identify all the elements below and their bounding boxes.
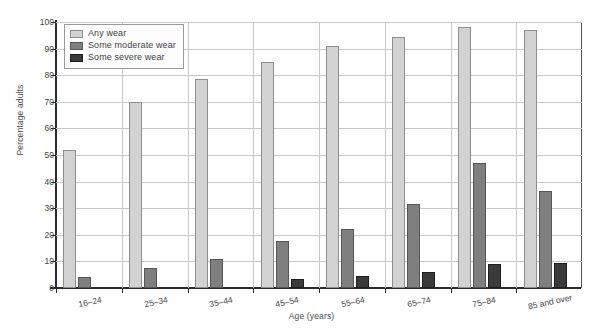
legend-item: Some severe wear [70,52,176,64]
bar [291,279,304,288]
x-axis-tick-mark [253,288,254,293]
gridline-vertical [319,22,320,288]
bar [539,191,552,288]
bar [554,263,567,288]
x-axis-tick-mark [319,288,320,293]
y-axis-tick-mark [51,22,56,23]
gridline-vertical [385,22,386,288]
legend-item-label: Some severe wear [88,52,165,64]
y-axis-tick-mark [51,49,56,50]
y-axis-tick-mark [51,102,56,103]
bar [195,79,208,288]
x-axis-tick-label: 75–84 [472,295,497,310]
bar [261,62,274,288]
legend-swatch-icon [70,54,83,62]
x-axis-tick-mark [56,288,57,293]
x-axis-tick-mark [385,288,386,293]
x-axis-tick-label: 35–44 [209,295,234,310]
x-axis-tick-label: 45–54 [275,295,300,310]
gridline-vertical [516,22,517,288]
bar [407,204,420,288]
x-axis-tick-mark [451,288,452,293]
bar [210,259,223,288]
gridline-vertical [188,22,189,288]
chart-figure: Percentage adults Age (years) 0102030405… [0,0,603,332]
y-axis-label: Percentage adults [15,40,25,200]
bar [129,102,142,288]
y-axis-tick-mark [51,235,56,236]
x-axis-tick-label: 85 and over [527,292,573,311]
bar [422,272,435,288]
x-axis-tick-mark [188,288,189,293]
legend-item-label: Any wear [88,28,126,40]
y-axis-tick-mark [51,155,56,156]
y-axis-tick-mark [51,128,56,129]
bar [78,277,91,288]
gridline-vertical [253,22,254,288]
x-axis-tick-mark [516,288,517,293]
x-axis-label: Age (years) [40,311,583,321]
x-axis-tick-label: 55–64 [340,295,365,310]
x-axis-tick-mark [122,288,123,293]
y-axis-line [55,20,57,288]
bar [458,27,471,288]
y-axis-tick-mark [51,182,56,183]
x-axis-tick-label: 65–74 [406,295,431,310]
y-axis-tick-mark [51,261,56,262]
y-axis-tick-mark [51,208,56,209]
bar [341,229,354,288]
bar [63,150,76,288]
bar [473,163,486,288]
legend-item-label: Some moderate wear [88,40,176,52]
y-axis-tick-mark [51,75,56,76]
x-axis-tick-label: 16–24 [77,295,102,310]
bar [144,268,157,288]
chart-legend: Any wearSome moderate wearSome severe we… [64,24,184,69]
legend-swatch-icon [70,30,83,38]
legend-item: Some moderate wear [70,40,176,52]
bar [392,37,405,288]
bar [276,241,289,288]
legend-item: Any wear [70,28,176,40]
bar [488,264,501,288]
legend-swatch-icon [70,42,83,50]
x-axis-tick-label: 25–34 [143,295,168,310]
bar [524,30,537,288]
bar [326,46,339,288]
gridline-vertical [451,22,452,288]
bar [356,276,369,288]
